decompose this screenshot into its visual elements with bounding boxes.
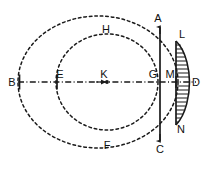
point-label-l: L [179,28,185,40]
point-label-k: K [100,68,108,80]
point-label-f: F [104,139,111,151]
point-label-n: N [177,123,185,135]
point-marker-k [105,80,109,84]
point-label-g: G [149,68,158,80]
figure-canvas: A B C D E F G H K L M N [0,0,205,170]
point-label-a: A [154,12,162,24]
point-label-b: B [8,76,15,88]
point-label-c: C [156,143,164,155]
point-label-m: M [165,68,174,80]
point-label-d: D [192,76,200,88]
point-label-e: E [56,68,63,80]
point-label-h: H [102,23,110,35]
geometry-figure: A B C D E F G H K L M N [0,0,205,170]
